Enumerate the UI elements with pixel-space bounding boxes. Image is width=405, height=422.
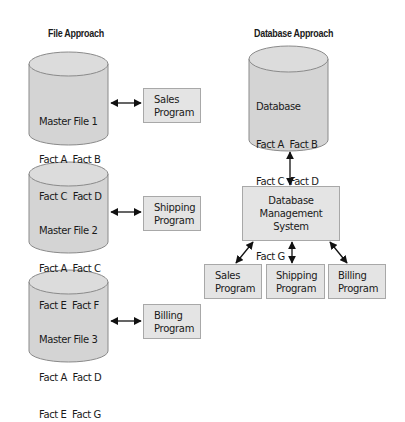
- master-file-2-facts-row1: Fact A Fact C: [39, 263, 101, 276]
- arrow-dbms-billing: [330, 242, 347, 263]
- db-billing-program-line2: Program: [338, 282, 385, 295]
- master-file-1-label: Master File 1 Fact A Fact B Fact C Fact …: [39, 91, 102, 216]
- master-file-2-name: Master File 2: [39, 225, 101, 238]
- master-file-1-name: Master File 1: [39, 116, 102, 129]
- file-billing-program-line2: Program: [154, 322, 200, 335]
- db-shipping-program-line1: Shipping: [276, 269, 324, 282]
- db-sales-program-line1: Sales: [215, 269, 261, 282]
- master-file-3-name: Master File 3: [39, 334, 101, 347]
- dbms-line3: System: [243, 220, 339, 233]
- file-billing-program-box: Billing Program: [143, 304, 201, 339]
- master-file-3-facts-row1: Fact A Fact D: [39, 372, 101, 385]
- db-shipping-program-line2: Program: [276, 282, 324, 295]
- db-shipping-program-box: Shipping Program: [266, 264, 325, 299]
- file-sales-program-line2: Program: [154, 106, 200, 119]
- db-sales-program-line2: Program: [215, 282, 261, 295]
- db-billing-program-box: Billing Program: [328, 264, 386, 299]
- file-sales-program-line1: Sales: [154, 93, 200, 106]
- master-file-3-label: Master File 3 Fact A Fact D Fact E Fact …: [39, 309, 101, 422]
- database-name: Database: [256, 101, 319, 114]
- file-billing-program-line1: Billing: [154, 309, 200, 322]
- file-shipping-program-line2: Program: [154, 214, 200, 227]
- master-file-2-label: Master File 2 Fact A Fact C Fact E Fact …: [39, 200, 101, 325]
- dbms-line1: Database: [243, 194, 339, 207]
- dbms-box: Database Management System: [242, 186, 340, 241]
- file-shipping-program-line1: Shipping: [154, 201, 200, 214]
- db-billing-program-line1: Billing: [338, 269, 385, 282]
- file-shipping-program-box: Shipping Program: [143, 196, 201, 231]
- database-facts-row1: Fact A Fact B: [256, 139, 319, 152]
- arrow-dbms-sales: [236, 242, 253, 263]
- file-sales-program-box: Sales Program: [143, 88, 201, 123]
- database-label: Database Fact A Fact B Fact C Fact D Fac…: [256, 76, 319, 276]
- master-file-3-facts-row2: Fact E Fact G: [39, 409, 101, 422]
- dbms-line2: Management: [243, 207, 339, 220]
- db-sales-program-box: Sales Program: [204, 264, 262, 299]
- database-facts-row4: Fact G: [256, 251, 319, 264]
- master-file-1-facts-row1: Fact A Fact B: [39, 154, 102, 167]
